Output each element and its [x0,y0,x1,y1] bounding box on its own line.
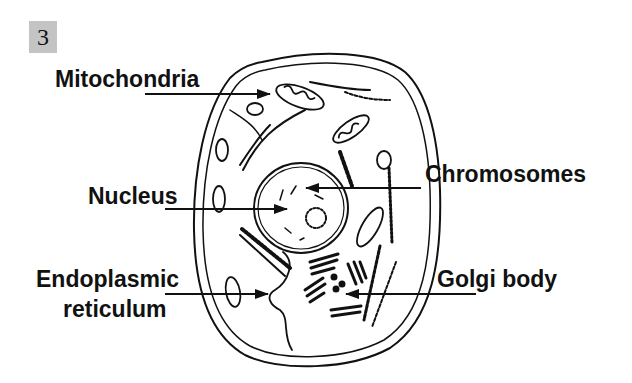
golgi-body [305,254,366,316]
cell-diagram [0,0,632,383]
chromatin [280,186,323,240]
nucleolus [306,208,326,228]
